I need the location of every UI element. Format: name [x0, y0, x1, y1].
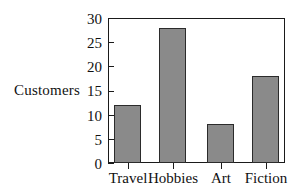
- y-tick-label-10: 10: [76, 109, 102, 123]
- bar-travel: [114, 105, 141, 163]
- y-tick-label-15: 15: [76, 84, 102, 98]
- y-tick-mark-30: [108, 18, 114, 19]
- y-tick-label-25: 25: [76, 36, 102, 50]
- y-tick-mark-15: [108, 91, 114, 92]
- bar-art: [207, 124, 234, 163]
- bar-chart: Customers 0 5 10 15 20 25 30 Travel Hobb…: [0, 0, 305, 196]
- x-tick-label-fiction: Fiction: [238, 170, 294, 187]
- bar-hobbies: [159, 28, 186, 163]
- y-tick-mark-0: [108, 163, 114, 164]
- y-tick-mark-20: [108, 66, 114, 67]
- y-tick-label-20: 20: [76, 60, 102, 74]
- y-axis-title: Customers: [14, 81, 80, 99]
- x-tick-mark-hobbies: [173, 163, 174, 169]
- x-tick-mark-art: [221, 163, 222, 169]
- y-tick-label-0: 0: [76, 157, 102, 171]
- y-tick-mark-25: [108, 42, 114, 43]
- x-tick-mark-fiction: [266, 163, 267, 169]
- y-tick-label-30: 30: [76, 12, 102, 26]
- y-tick-label-5: 5: [76, 133, 102, 147]
- x-tick-mark-travel: [128, 163, 129, 169]
- bar-fiction: [252, 76, 279, 163]
